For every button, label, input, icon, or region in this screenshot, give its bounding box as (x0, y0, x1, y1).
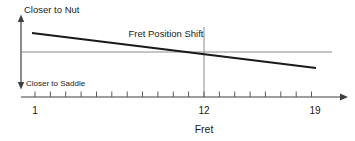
x-axis-right-arrow-icon (340, 94, 348, 101)
x-axis-caption: Fret (195, 123, 214, 135)
x-tick-label-1: 1 (32, 105, 38, 116)
x-axis-ticks (35, 92, 312, 98)
series-title-label: Fret Position Shift (129, 28, 204, 39)
x-tick-label-12: 12 (198, 105, 210, 116)
y-axis-bottom-label: Closer to Saddle (26, 79, 86, 88)
x-axis (21, 92, 348, 101)
fret-position-shift-chart: Closer to Nut Closer to Saddle Fret Posi… (0, 0, 355, 141)
y-axis-down-arrow-icon (18, 82, 24, 90)
x-tick-label-19: 19 (309, 105, 321, 116)
y-axis-top-label: Closer to Nut (24, 4, 80, 15)
y-axis-up-arrow-icon (18, 15, 24, 23)
chart-canvas: Closer to Nut Closer to Saddle Fret Posi… (0, 0, 355, 141)
